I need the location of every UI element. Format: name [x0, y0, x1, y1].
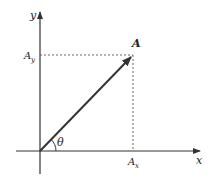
angle-arc	[51, 140, 56, 152]
y-component-main: A	[23, 50, 31, 61]
vector-a	[40, 57, 131, 151]
x-axis-label: x	[196, 154, 203, 167]
vector-label: A	[131, 37, 141, 50]
y-component-subscript: y	[30, 56, 36, 64]
x-component-main: A	[127, 156, 135, 167]
x-component-label: A x	[127, 156, 139, 170]
y-component-label: A y	[23, 50, 36, 64]
y-axis-label: y	[29, 9, 37, 22]
vector-diagram: y x A θ A y A x	[0, 0, 213, 183]
x-component-subscript: x	[135, 162, 139, 170]
angle-label: θ	[57, 136, 64, 149]
